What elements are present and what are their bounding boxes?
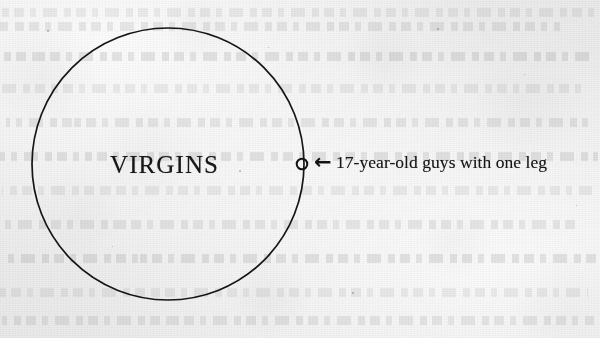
left-arrow-icon: ← — [314, 151, 336, 173]
set-label-virgins: VIRGINS — [110, 151, 219, 179]
callout-label: 17-year-old guys with one leg — [336, 152, 547, 173]
subset-marker-circle — [297, 159, 308, 170]
scanned-page: VIRGINS ← 17-year-old guys with one leg — [0, 0, 600, 338]
